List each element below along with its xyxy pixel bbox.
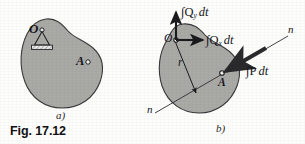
axis-label-n-upper: n <box>288 24 294 35</box>
panel-a-point-a-marker <box>86 60 90 64</box>
impulse-qx-subscript: x <box>218 39 221 48</box>
figure-caption: Fig. 17.12 <box>10 124 66 138</box>
impulse-qx-differential: dt <box>224 33 234 47</box>
panel-b-point-a-marker <box>220 71 225 76</box>
panel-a-label: a) <box>56 109 65 121</box>
impulse-qy-differential: dt <box>199 5 209 19</box>
panel-b-point-a-label: A <box>218 77 226 89</box>
panel-a-point-a-label: A <box>76 55 84 68</box>
axis-label-n-lower: n <box>147 104 153 115</box>
figure-17-12: O A a) Fig. 17.12 O A r n n ∫Qydt ∫Qxdt … <box>0 0 305 144</box>
impulse-qy-label: ∫Qydt <box>181 3 209 20</box>
panel-b-label: b) <box>216 122 225 134</box>
panel-b-point-o-label: O <box>164 33 172 45</box>
impulse-qx-label: ∫Qxdt <box>206 31 234 48</box>
impulse-qy-subscript: y <box>193 11 196 20</box>
impulse-p-symbol: P <box>249 64 256 78</box>
impulse-p-label: ∫Pdt <box>246 62 268 78</box>
radius-label-r: r <box>178 57 182 69</box>
impulse-p-differential: dt <box>258 64 268 78</box>
panel-a-point-o-label: O <box>29 22 38 35</box>
